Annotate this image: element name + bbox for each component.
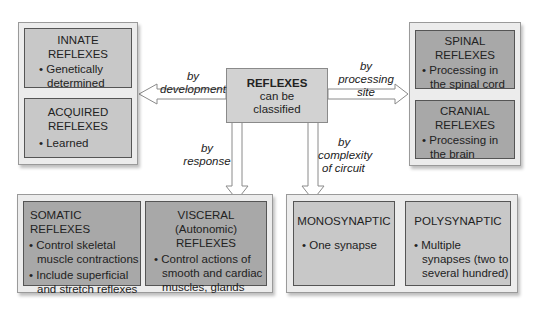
label-by-development: by development bbox=[160, 70, 226, 96]
visceral-title-1: VISCERAL (Autonomic) bbox=[146, 208, 266, 236]
innate-title-2: REFLEXES bbox=[25, 47, 131, 61]
label-processing-site: site bbox=[334, 86, 398, 99]
monosynaptic-title: MONOSYNAPTIC bbox=[294, 214, 394, 228]
label-complexity-by: by bbox=[318, 136, 388, 149]
label-complexity-circuit: of circuit bbox=[318, 162, 388, 175]
polysynaptic-bullet: • Multiple synapses (two to several hund… bbox=[406, 238, 510, 280]
somatic-title: SOMATIC REFLEXES bbox=[24, 208, 140, 236]
polysynaptic-title: POLYSYNAPTIC bbox=[406, 214, 510, 228]
label-by-processing-site: by processing site bbox=[334, 60, 398, 99]
somatic-bullet-1: • Control skeletal muscle contractions bbox=[24, 238, 140, 266]
label-processing-word: processing bbox=[334, 73, 398, 86]
acquired-title-2: REFLEXES bbox=[25, 119, 131, 133]
spinal-title-1: SPINAL bbox=[416, 34, 514, 48]
label-response-by: by bbox=[182, 142, 232, 155]
label-development-word: development bbox=[160, 83, 226, 96]
reflexes-center-box: REFLEXES can be classified bbox=[226, 68, 328, 123]
acquired-reflexes-box: ACQUIRED REFLEXES • Learned bbox=[24, 98, 132, 158]
monosynaptic-box: MONOSYNAPTIC • One synapse bbox=[293, 201, 395, 286]
spinal-bullet: • Processing in the spinal cord bbox=[416, 63, 514, 91]
complexity-panel: MONOSYNAPTIC • One synapse POLYSYNAPTIC … bbox=[286, 194, 518, 293]
cranial-reflexes-box: CRANIAL REFLEXES • Processing in the bra… bbox=[415, 100, 515, 159]
cranial-title-1: CRANIAL bbox=[416, 104, 514, 118]
label-response-word: response bbox=[182, 155, 232, 168]
visceral-title-2: REFLEXES bbox=[146, 236, 266, 250]
somatic-bullet-2: • Include superficial and stretch reflex… bbox=[24, 268, 140, 296]
visceral-bullet: • Control actions of smooth and cardiac … bbox=[146, 252, 266, 294]
visceral-reflexes-box: VISCERAL (Autonomic) REFLEXES • Control … bbox=[145, 201, 267, 286]
center-line-1: can be bbox=[227, 90, 327, 103]
label-complexity-word: complexity bbox=[318, 149, 388, 162]
response-panel: SOMATIC REFLEXES • Control skeletal musc… bbox=[17, 194, 273, 293]
innate-reflexes-box: INNATE REFLEXES • Genetically determined bbox=[24, 28, 132, 88]
polysynaptic-box: POLYSYNAPTIC • Multiple synapses (two to… bbox=[405, 201, 511, 286]
label-by-complexity: by complexity of circuit bbox=[318, 136, 388, 175]
monosynaptic-bullet: • One synapse bbox=[294, 238, 394, 252]
development-panel: INNATE REFLEXES • Genetically determined… bbox=[18, 22, 138, 165]
label-processing-by: by bbox=[334, 60, 398, 73]
cranial-title-2: REFLEXES bbox=[416, 118, 514, 132]
label-development-by: by bbox=[160, 70, 226, 83]
innate-title-1: INNATE bbox=[25, 33, 131, 47]
cranial-bullet: • Processing in the brain bbox=[416, 133, 514, 161]
label-by-response: by response bbox=[182, 142, 232, 168]
center-title: REFLEXES bbox=[227, 77, 327, 90]
innate-bullet: • Genetically determined bbox=[25, 62, 131, 90]
spinal-reflexes-box: SPINAL REFLEXES • Processing in the spin… bbox=[415, 30, 515, 89]
spinal-title-2: REFLEXES bbox=[416, 48, 514, 62]
center-line-2: classified bbox=[227, 103, 327, 116]
acquired-title-1: ACQUIRED bbox=[25, 105, 131, 119]
processing-panel: SPINAL REFLEXES • Processing in the spin… bbox=[409, 22, 521, 166]
acquired-bullet: • Learned bbox=[25, 136, 131, 150]
somatic-reflexes-box: SOMATIC REFLEXES • Control skeletal musc… bbox=[23, 201, 141, 286]
